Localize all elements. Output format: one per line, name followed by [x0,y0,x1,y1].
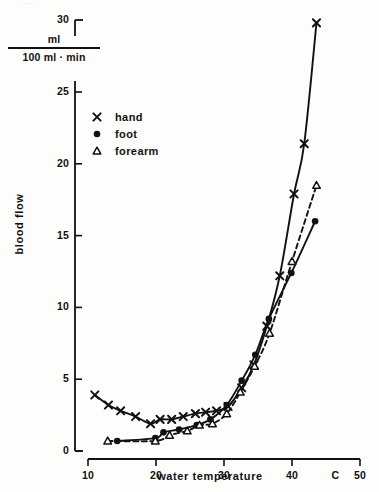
cross-marker-icon [88,110,106,124]
y-axis-tick-label: 30 [43,13,69,25]
legend-item-hand: hand [88,108,159,125]
fraction-rule [8,47,100,48]
legend-item-foot: foot [88,125,159,142]
y-axis-tick-label: 0 [43,444,69,456]
cross-marker-icon [93,113,100,120]
series-line-foot [117,221,315,441]
x-axis-unit-symbol: C [323,469,349,481]
filled-circle-marker-icon [223,402,230,409]
open-triangle-marker-icon [266,329,274,336]
open-triangle-marker-icon [93,147,101,154]
legend-label: foot [106,128,137,140]
open-triangle-marker-icon [313,182,321,189]
y-axis-unit-denominator: 100 ml · min [8,51,100,64]
axes-group [75,20,360,466]
cross-marker-icon [105,401,112,408]
y-axis-unit-numerator: ml [8,33,100,47]
x-axis-tick-label: 40 [279,469,305,481]
y-axis-tick-label: 15 [43,229,69,241]
filled-circle-marker-icon [176,426,183,433]
cross-marker-icon [91,391,98,398]
y-axis-unit-fraction: ml 100 ml · min [8,33,100,64]
series-line-hand [95,23,317,424]
filled-circle-marker-icon [88,127,106,141]
series-hand [91,19,320,427]
y-axis-title: blood flow [13,184,25,264]
open-triangle-marker-icon [288,258,296,265]
open-triangle-marker-icon [104,437,112,444]
x-axis-tick-label: 20 [143,469,169,481]
y-axis-tick-label: 25 [43,85,69,97]
y-axis-tick-label: 20 [43,157,69,169]
filled-circle-marker-icon [252,351,259,358]
filled-circle-marker-icon [312,218,319,225]
x-axis-tick-label: 30 [211,469,237,481]
open-triangle-marker-icon [88,144,106,158]
y-axis-tick-label: 10 [43,300,69,312]
cross-marker-icon [132,413,139,420]
legend-label: hand [106,111,143,123]
x-axis-tick-label: 50 [347,469,373,481]
filled-circle-marker-icon [266,316,273,323]
filled-circle-marker-icon [160,429,167,436]
chart-plot-area [0,0,379,492]
data-series-group [91,19,320,444]
x-axis-tick-label: 10 [75,469,101,481]
blood-flow-chart-figure: ····· ml 100 ml · min blood flow water t… [0,0,379,492]
legend-item-forearm: forearm [88,142,159,159]
series-line-forearm [108,185,317,441]
chart-legend: handfootforearm [88,108,159,159]
legend-label: forearm [106,145,159,157]
filled-circle-marker-icon [94,130,101,137]
filled-circle-marker-icon [238,377,245,384]
series-forearm [104,182,320,444]
y-axis-tick-label: 5 [43,372,69,384]
